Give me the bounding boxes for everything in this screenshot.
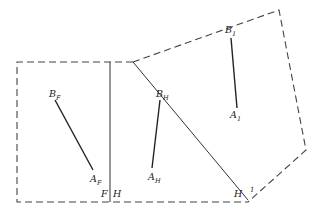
label-AH: AH [147,171,161,185]
label-AF: AF [89,173,102,187]
label-corner-H: H [233,188,243,199]
label-BH: BH [155,88,169,102]
label-fold-F: F [100,188,108,199]
segment-BH-AH [152,100,160,168]
label-BF: BF [48,88,61,102]
left-dashed-frame [17,62,248,202]
segment-BF-AF [55,100,93,170]
segment-B1-A1 [231,38,237,108]
label-corner-1: 1 [250,186,254,194]
label-A1: A1 [229,109,241,123]
label-fold-H: H [112,188,122,199]
transformation-diagram: BF AF BH AH B1 A1 F H H 1 [0,0,322,213]
label-B1: B1 [224,24,236,38]
